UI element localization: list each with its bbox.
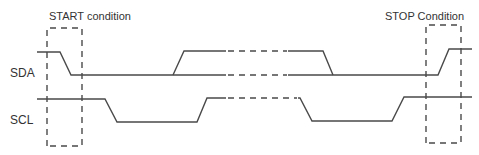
sda-signal-label: SDA [10,67,35,80]
start-condition-box [47,28,82,146]
i2c-timing-diagram: START condition STOP Condition SDA SCL [0,0,479,155]
sda-waveform [37,49,472,75]
scl-signal-label: SCL [10,114,33,127]
timing-waveforms [0,0,479,155]
scl-waveform [37,97,472,122]
start-condition-label: START condition [49,10,131,22]
stop-condition-box [426,25,461,143]
stop-condition-label: STOP Condition [385,10,464,22]
